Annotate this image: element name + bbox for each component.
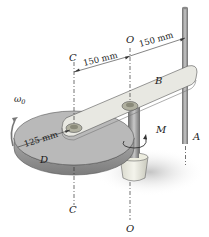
- label-o-bottom: O: [126, 223, 134, 234]
- label-c-top: C: [69, 52, 77, 63]
- label-a: A: [192, 131, 200, 142]
- label-o-top: O: [126, 34, 134, 45]
- label-m: M: [155, 124, 167, 135]
- dimension-label-o-a: 150 mm: [138, 30, 174, 49]
- label-omega: ω0: [14, 94, 25, 106]
- label-b: B: [154, 75, 162, 86]
- mechanism-figure: C O 150 mm 150 mm B ω0 125 mm M A D C O: [0, 0, 209, 237]
- dimension-label-c-o: 150 mm: [82, 50, 118, 68]
- label-c-bottom: C: [69, 204, 77, 215]
- label-d: D: [39, 154, 48, 165]
